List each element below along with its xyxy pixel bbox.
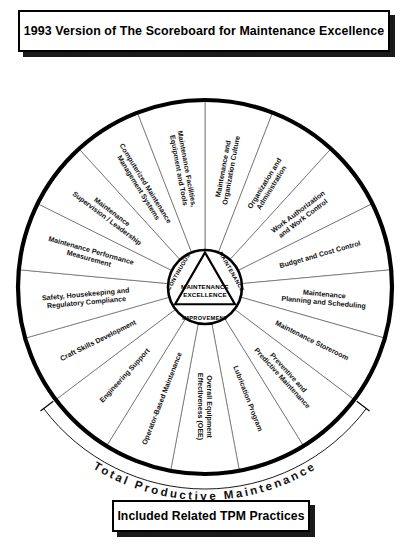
wheel-segment-label-line: Overall Equipment (205, 375, 213, 438)
wheel-segment-label-line: Effectiveness (OEE) (196, 373, 204, 441)
svg-text:IMPROVEMENT: IMPROVEMENT (182, 315, 228, 321)
footer-box-face: Included Related TPM Practices (112, 500, 310, 532)
wheel-segment-label: Overall EquipmentEffectiveness (OEE) (196, 373, 212, 441)
tpm-scope-tick-right (357, 401, 370, 411)
diagram-canvas: 1993 Version of The Scoreboard for Maint… (0, 0, 407, 550)
maintenance-excellence-wheel: Maintenance andOrganization CultureOrgan… (0, 0, 407, 550)
hub-center-line2: EXCELLENCE (183, 291, 227, 298)
hub-center-line1: MAINTENANCE (181, 283, 229, 290)
tpm-scope-tick-left (40, 401, 53, 411)
footer-label: Included Related TPM Practices (117, 509, 304, 523)
footer-box: Included Related TPM Practices (112, 500, 310, 532)
hub-label-improvement: IMPROVEMENT (182, 315, 228, 321)
